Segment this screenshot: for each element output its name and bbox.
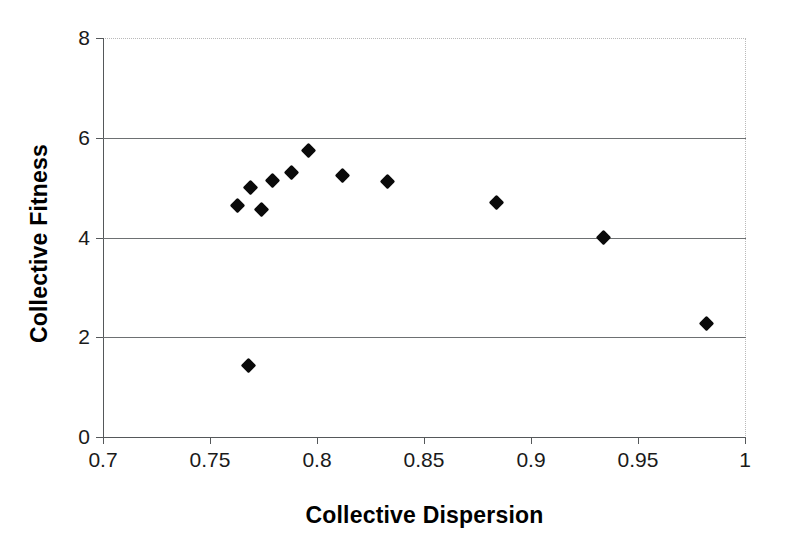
- x-tick-label-0.8: 0.8: [257, 449, 377, 470]
- x-tick-label-1: 1: [685, 449, 789, 470]
- plot-top-border: [103, 38, 746, 39]
- x-tick-0.75: [210, 437, 211, 444]
- x-tick-0.95: [638, 437, 639, 444]
- gridline-y-6: [103, 138, 746, 139]
- x-tick-0.85: [424, 437, 425, 444]
- x-tick-label-0.7: 0.7: [43, 449, 163, 470]
- x-tick-label-0.85: 0.85: [364, 449, 484, 470]
- y-tick-0: [96, 437, 103, 438]
- y-tick-6: [96, 138, 103, 139]
- x-tick-0.9: [531, 437, 532, 444]
- y-tick-8: [96, 38, 103, 39]
- x-tick-0.7: [103, 437, 104, 444]
- scatter-chart: 02468 0.70.750.80.850.90.951 Collective …: [0, 0, 789, 559]
- x-tick-label-0.75: 0.75: [150, 449, 270, 470]
- gridline-y-2: [103, 337, 746, 338]
- x-tick-label-0.95: 0.95: [578, 449, 698, 470]
- x-tick-label-0.9: 0.9: [471, 449, 591, 470]
- x-axis-title: Collective Dispersion: [103, 502, 746, 529]
- y-tick-4: [96, 238, 103, 239]
- y-tick-2: [96, 337, 103, 338]
- x-tick-0.8: [317, 437, 318, 444]
- x-tick-1: [745, 437, 746, 444]
- y-axis-title: Collective Fitness: [26, 44, 53, 444]
- gridline-y-4: [103, 238, 746, 239]
